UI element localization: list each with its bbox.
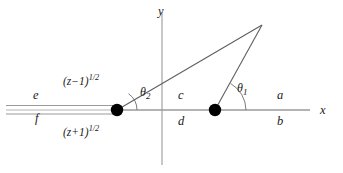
lower-branch-expression: (z+1)1/2: [63, 125, 99, 138]
figure-canvas: [0, 0, 343, 173]
theta-2-subscript: 2: [146, 91, 150, 101]
upper-branch-base: (z−1): [63, 75, 89, 87]
y-axis-label: y: [158, 5, 164, 18]
lower-branch-base: (z+1): [63, 126, 89, 138]
lower-branch-exponent: 1/2: [89, 124, 100, 133]
upper-branch-expression: (z−1)1/2: [63, 74, 99, 87]
left-branch-point-dot: [111, 104, 123, 116]
theta-2-label: θ2: [140, 86, 150, 101]
region-label-f: f: [35, 112, 38, 125]
region-label-e: e: [33, 89, 39, 102]
region-label-a: a: [277, 89, 283, 102]
branch-cut-figure: x y e f c d a b θ2 θ1 (z−1)1/2 (z+1)1/2: [0, 0, 343, 173]
upper-branch-exponent: 1/2: [89, 73, 100, 82]
theta-1-subscript: 1: [243, 87, 247, 97]
theta-1-label: θ1: [237, 82, 247, 97]
theta-2-arc: [129, 94, 138, 110]
region-label-b: b: [277, 115, 283, 128]
right-branch-point-dot: [209, 104, 221, 116]
region-label-c: c: [178, 89, 184, 102]
region-label-d: d: [178, 115, 184, 128]
x-axis-label: x: [320, 104, 326, 117]
